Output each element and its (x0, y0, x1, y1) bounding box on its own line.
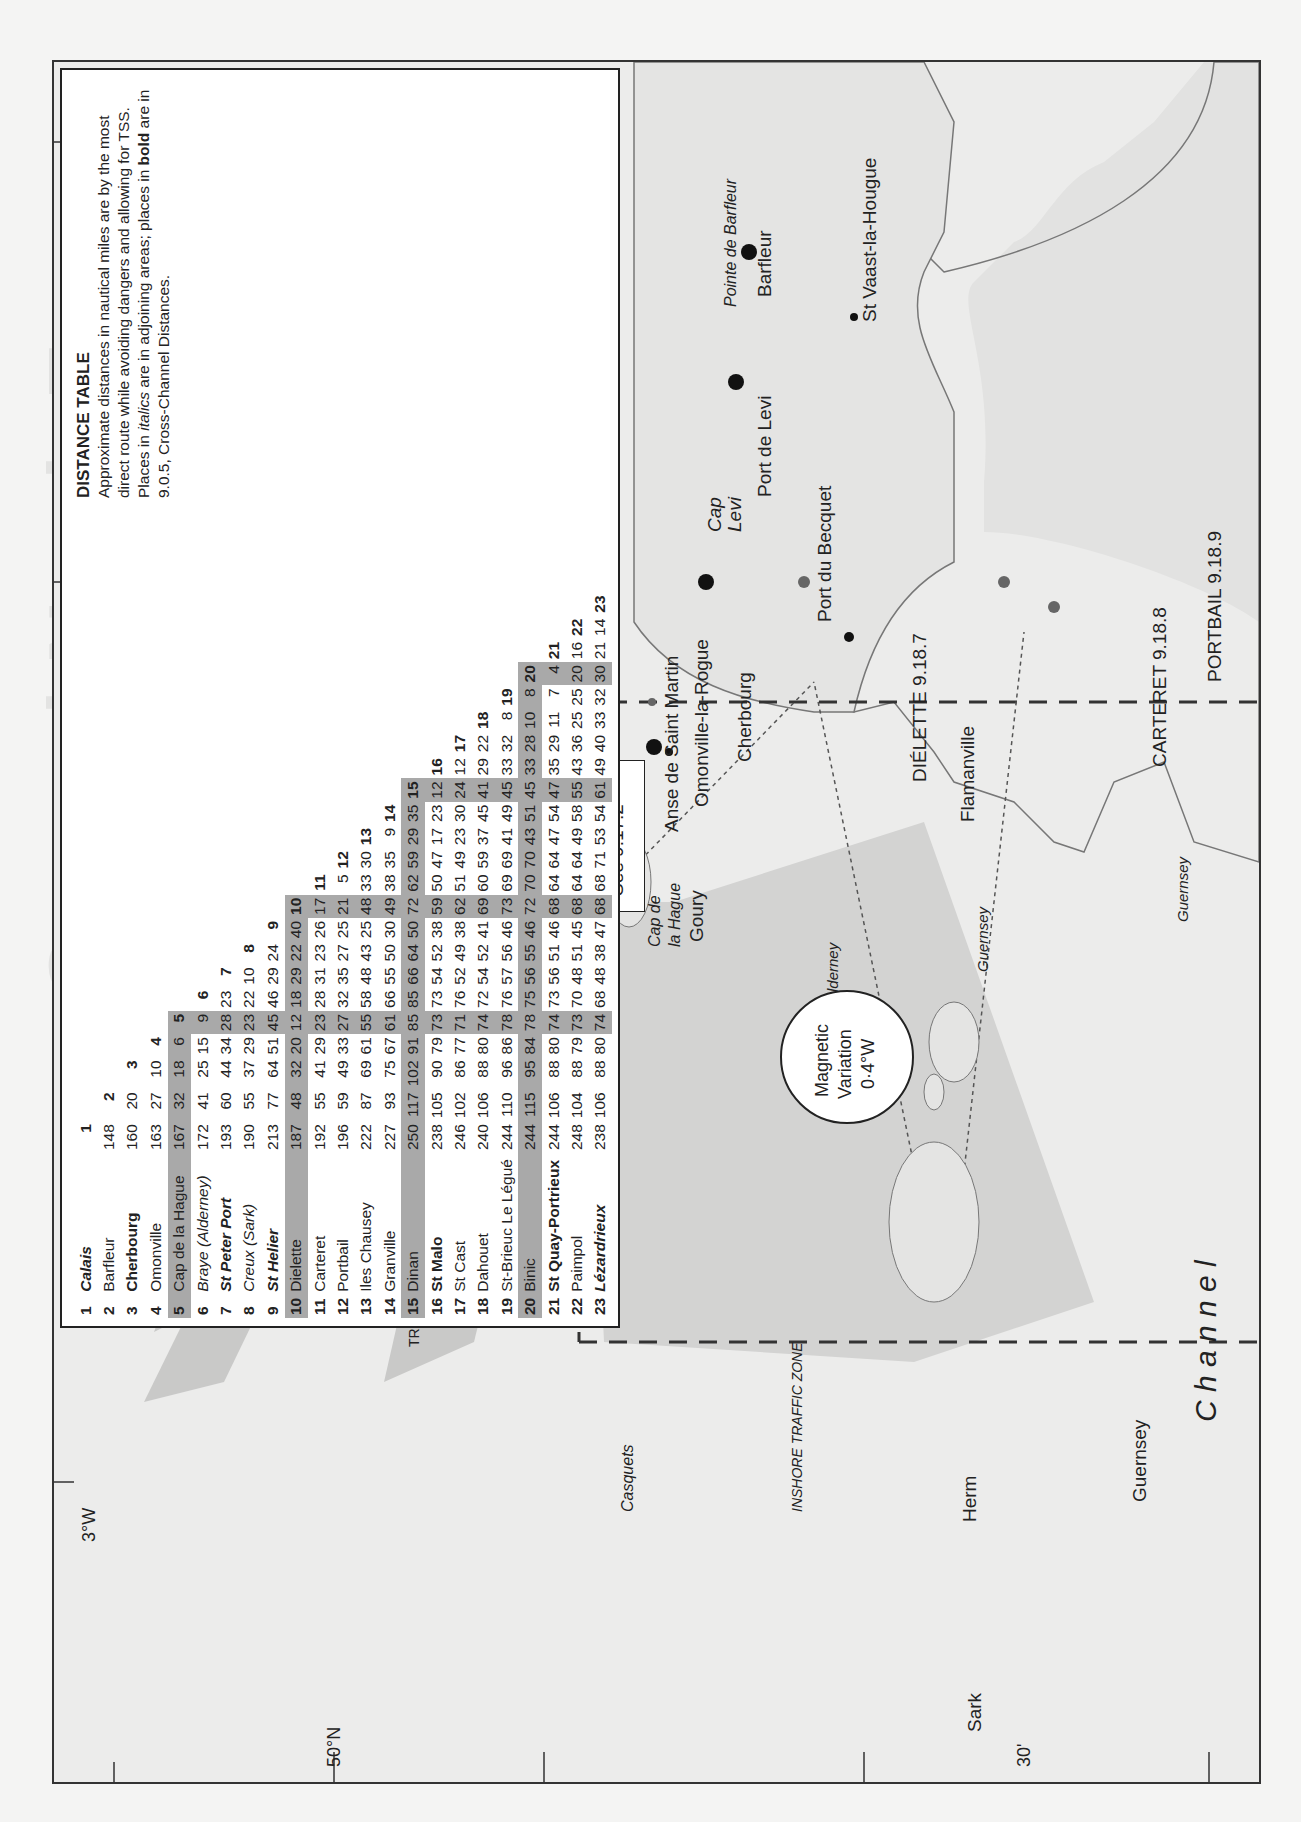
table-row: 10Dielette187483220121829224010 (285, 592, 308, 1318)
label-cap-levi-1: Cap (704, 497, 726, 532)
label-route-guernsey-1: Guernsey (974, 907, 991, 972)
table-row: 16St Malo2381059079737354523859504717231… (425, 592, 448, 1318)
label-anse-saint-martin: Anse de Saint Martin (661, 656, 683, 832)
table-row: 13Iles Chausey22287696155584843254833301… (355, 592, 378, 1318)
table-row: 7St Peter Port19360443428237 (214, 592, 237, 1318)
table-row: 4Omonville16327104 (144, 592, 167, 1318)
table-row: 3Cherbourg160203 (121, 592, 144, 1318)
label-guernsey: Guernsey (1129, 1420, 1151, 1502)
label-port-du-becquet: Port du Becquet (814, 486, 836, 622)
table-row: 18Dahouet2401068880747254524169605937454… (472, 592, 495, 1318)
table-row: 21St Quay-Portrieux244106888074735651466… (542, 592, 565, 1318)
label-port-de-levi: Port de Levi (754, 396, 776, 497)
table-row: 14Granville2279375676166555030493835914 (378, 592, 401, 1318)
table-row: 15Dinan250117102918585666450726259293515 (401, 592, 424, 1318)
distance-table-note: Approximate distances in nautical miles … (94, 88, 174, 498)
table-row: 12Portbail196594933273235272521512 (331, 592, 354, 1318)
magnetic-variation-badge: Magnetic Variation 0·4°W (780, 990, 914, 1124)
label-flamanville: Flamanville (957, 726, 979, 822)
table-row: 19St-Brieuc Le Légué24411096867876575646… (495, 592, 518, 1318)
label-casquets: Casquets (619, 1444, 637, 1512)
distance-table-content: 1Calais12Barfleur14823Cherbourg1602034Om… (62, 70, 620, 1328)
axis-label-30-bottom: 30' (1014, 1744, 1035, 1767)
magnetic-line2: Variation (835, 1029, 856, 1099)
label-goury: Goury (686, 890, 708, 942)
table-row: 9St Helier213776451454629249 (261, 592, 284, 1318)
table-row: 20Binic244115958478755655467270704351453… (518, 592, 541, 1318)
label-pointe-de-barfleur: Pointe de Barfleur (722, 179, 740, 307)
table-row: 1Calais1 (74, 592, 97, 1318)
axis-label-3w: 3°W (79, 1508, 100, 1542)
table-row: 11Carteret19255412923283123261711 (308, 592, 331, 1318)
table-row: 5Cap de la Hague167321865 (168, 592, 191, 1318)
label-herm: Herm (959, 1476, 981, 1522)
axis-label-50n: 50°N (324, 1727, 345, 1767)
label-cap-levi-2: Levi (724, 497, 746, 532)
label-omonville: Omonville-la-Rogue (691, 639, 713, 807)
label-route-guernsey-2: Guernsey (1174, 857, 1191, 922)
magnetic-line3: 0·4°W (858, 1039, 879, 1089)
label-sark: Sark (964, 1693, 986, 1732)
table-row: 2Barfleur1482 (97, 592, 120, 1318)
table-row: 6Braye (Alderney)17241251596 (191, 592, 214, 1318)
label-cherbourg: Cherbourg (734, 672, 756, 762)
label-cap-hague-1: Cap de (646, 895, 664, 947)
label-carteret: CARTERET 9.18.8 (1149, 607, 1171, 767)
magnetic-line1: Magnetic (812, 1024, 833, 1097)
label-dielette: DIÉLETTE 9.18.7 (909, 633, 931, 782)
distance-table-title: DISTANCE TABLE (74, 88, 94, 498)
label-barfleur: Barfleur (754, 230, 776, 297)
distance-table-panel: 1Calais12Barfleur14823Cherbourg1602034Om… (60, 68, 620, 1328)
table-row: 17St Cast2461028677717652493862514923302… (448, 592, 471, 1318)
label-channel: C h a n n e l (1189, 1260, 1223, 1422)
table-row: 22Paimpol2481048879737048514568646449585… (565, 592, 588, 1318)
distance-table: 1Calais12Barfleur14823Cherbourg1602034Om… (74, 592, 612, 1318)
label-cap-hague-2: la Hague (666, 883, 684, 947)
distance-table-description: DISTANCE TABLE Approximate distances in … (74, 88, 174, 498)
label-st-vaast: St Vaast-la-Hougue (859, 158, 881, 322)
table-row: 23Lézardrieux238106888074684838476868715… (589, 592, 612, 1318)
label-inshore-traffic-zone: INSHORE TRAFFIC ZONE (789, 1342, 805, 1512)
table-row: 8Creux (Sark)1905537292322108 (238, 592, 261, 1318)
label-portbail: PORTBAIL 9.18.9 (1204, 531, 1226, 682)
